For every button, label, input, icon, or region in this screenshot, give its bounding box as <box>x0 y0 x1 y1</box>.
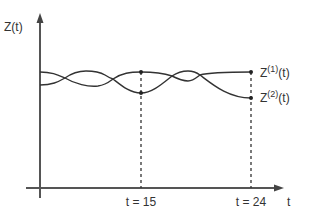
x-axis-label: t <box>287 195 291 209</box>
point-z2-t24 <box>249 96 253 100</box>
marker-label-t24: t = 24 <box>236 195 267 209</box>
marker-label-t15: t = 15 <box>126 195 157 209</box>
diagram-canvas: Z(t) t t = 15 t = 24 Z(1)(t) Z(2)(t) <box>0 0 312 214</box>
x-axis-arrow-icon <box>274 185 284 192</box>
curve-label-z1: Z(1)(t) <box>260 64 290 80</box>
point-z1-t24 <box>249 70 253 74</box>
point-z2-t15 <box>139 91 143 95</box>
point-z1-t15 <box>139 70 143 74</box>
curve-label-z2: Z(2)(t) <box>260 89 290 105</box>
y-axis-arrow-icon <box>37 13 44 23</box>
curve-z2 <box>40 71 251 98</box>
y-axis-label: Z(t) <box>4 20 23 34</box>
